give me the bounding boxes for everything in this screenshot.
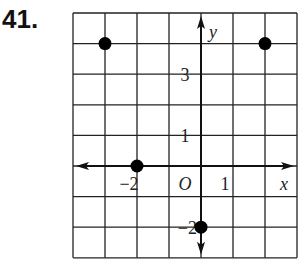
axis-labels: yxO−2131−2 — [119, 22, 288, 238]
y-tick-label: 1 — [181, 126, 190, 146]
data-point — [99, 37, 112, 50]
y-tick-label: −2 — [178, 218, 197, 238]
data-point — [195, 221, 208, 234]
data-point — [131, 160, 144, 173]
x-tick-label: 1 — [221, 174, 230, 194]
x-axis-label: x — [279, 174, 288, 194]
origin-label: O — [179, 174, 192, 194]
y-tick-label: 3 — [181, 65, 190, 85]
y-axis-label: y — [207, 22, 217, 42]
coordinate-grid: yxO−2131−2 — [0, 0, 308, 267]
data-point — [259, 37, 272, 50]
x-tick-label: −2 — [119, 174, 138, 194]
